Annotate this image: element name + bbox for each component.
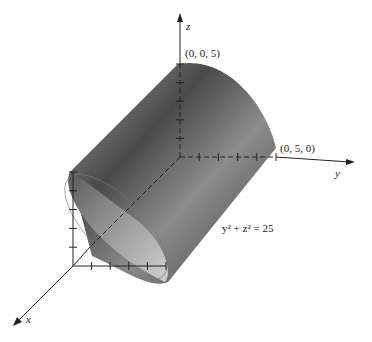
y-axis-arrow: [346, 159, 355, 165]
y-axis: [276, 157, 350, 162]
z-axis-label: z: [185, 20, 191, 32]
equation-label: y² + z² = 25: [222, 222, 274, 234]
front-x-link: [73, 247, 90, 266]
x-axis-label: x: [25, 313, 31, 325]
point-label-z: (0, 0, 5): [185, 47, 220, 60]
cylinder-diagram: z y x (0, 0, 5) (0, 5, 0) y² + z² = 25: [0, 0, 372, 342]
x-axis: [16, 266, 73, 323]
point-label-y: (0, 5, 0): [280, 142, 315, 155]
z-axis-arrow: [177, 13, 183, 22]
y-axis-label: y: [334, 167, 340, 179]
cylinder-surface: [70, 63, 276, 284]
